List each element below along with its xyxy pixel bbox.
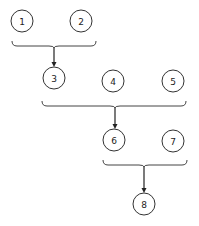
node-label: 6 xyxy=(111,136,117,146)
node-label: 3 xyxy=(51,74,57,84)
group-bracket-2 xyxy=(42,101,186,108)
node-label: 5 xyxy=(170,77,176,87)
node-3: 3 xyxy=(43,67,65,89)
node-7: 7 xyxy=(162,130,184,152)
brackets xyxy=(12,41,187,167)
nodes: 12345678 xyxy=(11,10,184,215)
arrow-down-icon xyxy=(142,188,147,193)
node-8: 8 xyxy=(133,193,155,215)
node-label: 1 xyxy=(19,17,25,27)
group-bracket-3 xyxy=(103,160,187,167)
node-label: 2 xyxy=(78,17,84,27)
arrow-down-icon xyxy=(52,62,57,67)
node-6: 6 xyxy=(103,129,125,151)
node-5: 5 xyxy=(162,70,184,92)
node-4: 4 xyxy=(102,70,124,92)
arrow-down-icon xyxy=(113,124,118,129)
node-label: 4 xyxy=(110,77,116,87)
node-label: 8 xyxy=(141,200,147,210)
node-1: 1 xyxy=(11,10,33,32)
node-2: 2 xyxy=(70,10,92,32)
node-label: 7 xyxy=(170,137,176,147)
grouping-flow-diagram: 12345678 xyxy=(0,0,199,226)
group-bracket-1 xyxy=(12,41,96,48)
arrows xyxy=(52,48,147,193)
